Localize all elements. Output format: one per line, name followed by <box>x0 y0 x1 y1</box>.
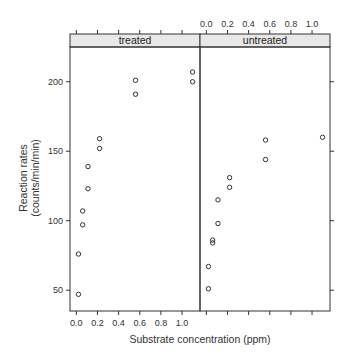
data-point <box>263 157 267 161</box>
data-point <box>97 137 101 141</box>
x-tick-label: 0.8 <box>285 19 298 29</box>
x-tick-label: 0.0 <box>200 19 213 29</box>
x-tick-label: 0.8 <box>155 318 168 328</box>
panel-frame <box>200 47 330 311</box>
data-point <box>80 209 84 213</box>
x-tick-label: 0.4 <box>112 318 125 328</box>
data-point <box>320 135 324 139</box>
x-tick-label: 0.4 <box>242 19 255 29</box>
panel-treated: treated0.00.20.40.60.81.050100150200 <box>48 30 200 328</box>
data-point <box>216 221 220 225</box>
data-point <box>76 252 80 256</box>
y-tick-label: 200 <box>48 77 63 87</box>
x-axis-label: Substrate concentration (ppm) <box>129 333 270 345</box>
x-tick-label: 0.2 <box>91 318 104 328</box>
data-point <box>263 138 267 142</box>
data-point <box>210 238 214 242</box>
lattice-scatter-chart: treated0.00.20.40.60.81.050100150200untr… <box>0 0 352 362</box>
data-point <box>80 223 84 227</box>
strip-label-treated: treated <box>119 34 152 46</box>
x-tick-label: 0.6 <box>133 318 146 328</box>
strip-label-untreated: untreated <box>243 34 288 46</box>
y-tick-label: 150 <box>48 146 63 156</box>
x-tick-label: 1.0 <box>306 19 319 29</box>
data-point <box>206 287 210 291</box>
x-tick-label: 1.0 <box>176 318 189 328</box>
data-point <box>216 198 220 202</box>
x-tick-label: 0.2 <box>221 19 234 29</box>
y-axis-label-line-2: (counts/min/min) <box>29 139 41 217</box>
data-point <box>97 146 101 150</box>
x-tick-label: 0.6 <box>263 19 276 29</box>
data-point <box>86 164 90 168</box>
data-point <box>190 70 194 74</box>
y-axis-label: Reaction rates (counts/min/min) <box>17 139 41 217</box>
data-point <box>206 264 210 268</box>
data-point <box>86 187 90 191</box>
panel-frame <box>70 47 200 311</box>
panel-untreated: untreated0.00.20.40.60.81.0 <box>200 19 334 315</box>
data-point <box>76 292 80 296</box>
data-point <box>133 78 137 82</box>
data-point <box>227 185 231 189</box>
data-point <box>133 92 137 96</box>
y-tick-label: 100 <box>48 216 63 226</box>
x-tick-label: 0.0 <box>70 318 83 328</box>
panels: treated0.00.20.40.60.81.050100150200untr… <box>48 19 334 328</box>
data-point <box>227 175 231 179</box>
data-point <box>190 80 194 84</box>
y-tick-label: 50 <box>53 285 63 295</box>
y-axis-label-line-1: Reaction rates <box>17 144 29 212</box>
